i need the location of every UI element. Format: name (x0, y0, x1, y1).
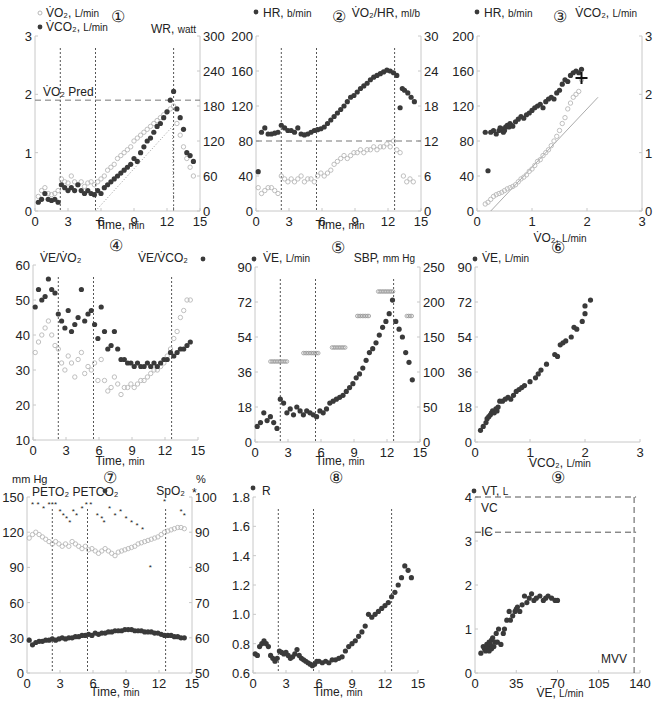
y2-tick-label: 180 (203, 99, 225, 114)
y-tick-label: 2 (25, 87, 32, 102)
y-tick-label: 40 (239, 169, 253, 184)
y-tick-label: 10 (16, 433, 30, 448)
x-tick-label: 140 (629, 676, 651, 691)
y-tick-label: 90 (238, 260, 252, 275)
panel-number: ⑦ (103, 469, 117, 486)
x-tick-label: 3 (636, 445, 643, 460)
y-tick-label: 40 (460, 169, 474, 184)
panel-number: ② (332, 8, 346, 25)
y2-tick-label: 24 (424, 64, 438, 79)
x-tick-label: 0 (471, 676, 478, 691)
legend-ve-vco2: V̇E/V̇CO₂ (138, 251, 188, 265)
y-tick-label: 120 (2, 525, 24, 540)
y2-tick-label: 0 (424, 204, 431, 219)
y-tick-label: 80 (239, 134, 253, 149)
y-tick-label: 1.8 (232, 490, 250, 505)
x-tick-label: 12 (152, 676, 166, 691)
y2-label-vco2: V̇CO₂, L/min (575, 6, 637, 20)
series-spo2: ***************************** (31, 497, 186, 573)
y2-tick-label: 0 (645, 204, 652, 219)
x-label-vco2: V̇CO₂, L/min (529, 456, 591, 470)
y-tick-label: 160 (452, 64, 474, 79)
y2-tick-label: 0 (423, 435, 430, 450)
svg-text:*: * (68, 518, 71, 527)
panel-number: ⑧ (329, 469, 343, 486)
svg-text:*: * (42, 504, 45, 513)
panel-number: ⑤ (331, 239, 345, 256)
y2-tick-label: 240 (203, 64, 225, 79)
series-vco2 (36, 89, 196, 205)
x-tick-label: 0 (471, 445, 478, 460)
vc-label: VC (481, 501, 498, 515)
mvv-label: MVV (601, 652, 627, 666)
y-tick-label: 200 (231, 29, 253, 44)
svg-text:*: * (141, 525, 144, 534)
x-tick-label: 3 (62, 443, 69, 458)
panel-number: ④ (109, 237, 123, 254)
x-label-time: Time, min (95, 218, 144, 232)
y-tick-label: 1.2 (232, 578, 250, 593)
series-vt (478, 591, 560, 656)
legend-ve-vo2: V̇E/V̇O₂ (40, 251, 82, 265)
svg-text:*: * (192, 486, 197, 500)
legend-r: R (262, 484, 271, 498)
y-tick-label: 72 (458, 295, 472, 310)
legend-hr: HR, b/min (263, 6, 311, 20)
x-tick-label: 0 (473, 214, 480, 229)
y-tick-label: 1.6 (232, 519, 250, 534)
x-tick-label: 12 (380, 445, 394, 460)
y-tick-label: 120 (452, 99, 474, 114)
svg-text:*: * (85, 500, 88, 509)
y-tick-label: 30 (16, 363, 30, 378)
chart-panel-4: 03691215102030405060④ (16, 237, 206, 458)
y2-label-vo2hr: V̇O₂/HR, ml/b (352, 6, 421, 20)
svg-text:*: * (96, 511, 99, 520)
series-peto2 (27, 525, 187, 558)
x-tick-label: 12 (381, 214, 395, 229)
x-tick-label: 3 (56, 676, 63, 691)
y2-tick-label: 30 (424, 29, 438, 44)
svg-text:*: * (124, 514, 127, 523)
x-tick-label: 2 (583, 214, 590, 229)
svg-text:*: * (36, 500, 39, 509)
y2-tick-label: 60 (195, 631, 209, 646)
x-tick-label: 12 (160, 214, 174, 229)
y2-tick-label: 150 (423, 330, 445, 345)
chart-panel-2: 03691215040801201602000612182430② (231, 8, 438, 229)
x-tick-label: 15 (411, 676, 425, 691)
y-tick-label: 54 (458, 330, 472, 345)
legend-hr: HR, b/min (484, 6, 532, 20)
svg-text:*: * (54, 500, 57, 509)
chart-grid: 036912150123060120180240300V̇O₂ Pred①036… (0, 0, 663, 703)
x-tick-label: 105 (588, 676, 610, 691)
x-tick-label: 3 (282, 676, 289, 691)
series-vo2-hr (256, 139, 415, 196)
x-label-vo2: V̇O₂, L/min (533, 231, 586, 245)
series-r (253, 563, 414, 668)
y-tick-label: 80 (460, 134, 474, 149)
legend-vco2: V̇CO₂, L/min (46, 20, 108, 34)
panel-number: ③ (553, 8, 567, 25)
x-tick-label: 3 (64, 214, 71, 229)
y2-tick-label: 1 (645, 146, 652, 161)
y2-tick-label: 6 (424, 169, 431, 184)
ic-label: IC (481, 525, 493, 539)
chart-panel-7: 0369121503060901201505060708090100******… (2, 469, 216, 691)
series-hr (483, 67, 584, 174)
y-tick-label: 72 (238, 295, 252, 310)
y-label-mmhg: mm Hg (12, 473, 47, 485)
series-petco2 (27, 627, 187, 647)
y-tick-label: 60 (16, 258, 30, 273)
y-tick-label: 50 (16, 293, 30, 308)
y2-tick-label: 50 (423, 400, 437, 415)
svg-text:*: * (89, 500, 92, 509)
svg-text:*: * (108, 504, 111, 513)
svg-text:*: * (113, 511, 116, 520)
y-tick-label: 18 (458, 400, 472, 415)
y-tick-label: 36 (238, 365, 252, 380)
y2-label-pct: % (196, 473, 206, 485)
y2-tick-label: 200 (423, 295, 445, 310)
y-tick-label: 90 (10, 560, 24, 575)
y-tick-label: 0.8 (232, 637, 250, 652)
x-tick-label: 0 (251, 445, 258, 460)
